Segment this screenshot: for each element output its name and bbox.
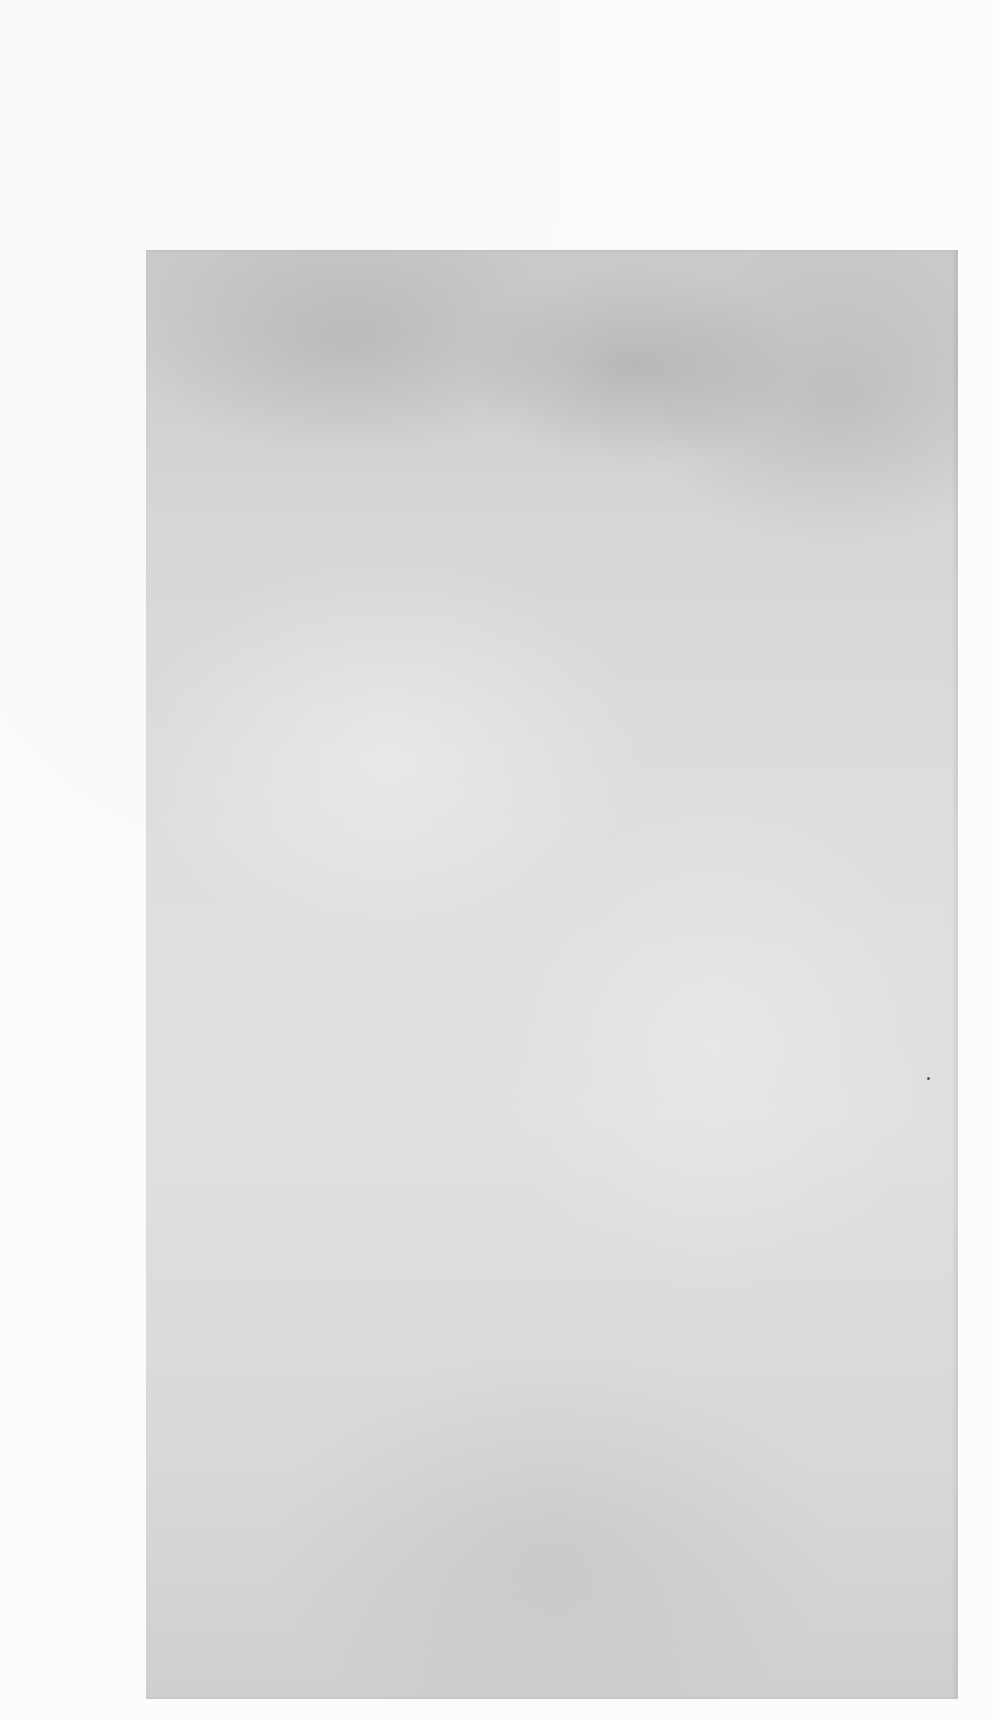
gray-plate-region xyxy=(146,250,958,1699)
scanned-page xyxy=(0,0,999,1721)
dust-speck xyxy=(927,1077,930,1080)
